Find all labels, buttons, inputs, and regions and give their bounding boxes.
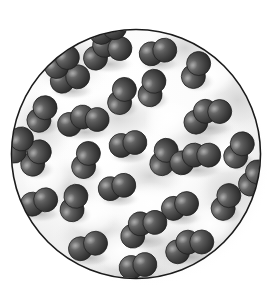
molecular-illustration-figure	[0, 0, 277, 297]
molecule-diagram-canvas	[0, 0, 277, 297]
